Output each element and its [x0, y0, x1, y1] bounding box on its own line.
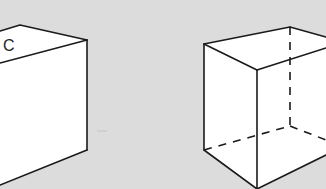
cube-diagram: C	[0, 0, 326, 189]
right-cube	[204, 27, 326, 189]
figure-canvas: C	[0, 0, 326, 189]
left-cube: C	[0, 25, 87, 185]
left-cube-front-face	[0, 40, 87, 185]
cube-label-c: C	[3, 37, 15, 54]
